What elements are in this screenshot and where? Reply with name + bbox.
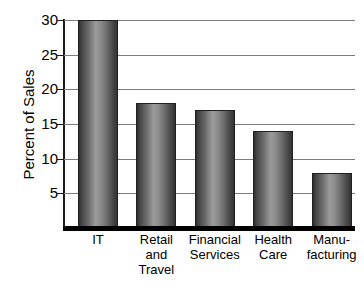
y-axis-tick	[57, 193, 64, 194]
y-axis-tick-label: 30	[26, 12, 58, 27]
x-axis-category-labels: ITRetailandTravelFinancialServicesHealth…	[63, 232, 355, 290]
x-axis-category-label-line: Manu-	[287, 232, 364, 247]
bar	[312, 173, 352, 228]
x-axis-category-label: Manu-facturing	[287, 232, 364, 262]
y-axis-tick	[57, 124, 64, 125]
x-axis-category-label-line: Travel	[111, 262, 201, 277]
y-axis-tick	[57, 159, 64, 160]
bar-chart: Percent of Sales 51015202530 ITRetailand…	[0, 0, 364, 291]
y-axis-tick-labels: 51015202530	[26, 0, 58, 291]
y-axis-tick-label: 20	[26, 81, 58, 96]
bar	[253, 131, 293, 228]
bar	[195, 110, 235, 228]
y-axis-tick	[57, 55, 64, 56]
x-axis-baseline	[63, 226, 355, 231]
y-axis-tick-label: 5	[26, 185, 58, 200]
plot-area	[63, 20, 355, 228]
x-axis-category-label-line: facturing	[287, 247, 364, 262]
bar	[78, 20, 118, 228]
y-axis-tick	[57, 20, 64, 21]
y-axis-tick-label: 15	[26, 116, 58, 131]
y-axis-tick	[57, 89, 64, 90]
bar	[136, 103, 176, 228]
y-axis-tick-label: 25	[26, 47, 58, 62]
y-axis-tick-label: 10	[26, 151, 58, 166]
